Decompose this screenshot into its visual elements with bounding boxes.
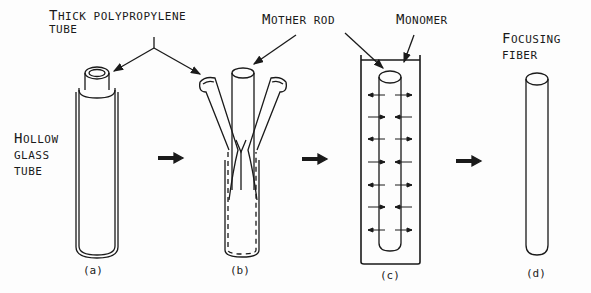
label-thick-polypropylene-tube: THICK POLYPROPYLENETUBE [49,9,186,36]
caption-d: (d) [526,267,546,280]
caption-a: (a) [83,264,103,277]
peeled-tube-with-mother-rod-b [200,68,287,257]
focusing-fiber-d [526,73,548,255]
label-monomer: MONOMER [396,13,448,27]
fiber-fabrication-diagram: THICK POLYPROPYLENETUBE MOTHER ROD MONOM… [0,0,591,293]
monomer-vessel-c [361,55,420,264]
caption-c: (c) [380,269,400,282]
hollow-glass-tube-a [76,67,118,258]
label-hollow-glass-tube: HOLLOWGLASSTUBE [14,130,59,180]
label-mother-rod: MOTHER ROD [262,13,335,27]
label-focusing-fiber: FOCUSINGFIBER [502,30,561,64]
diffusion-arrows [368,93,412,232]
caption-b: (b) [230,264,250,277]
